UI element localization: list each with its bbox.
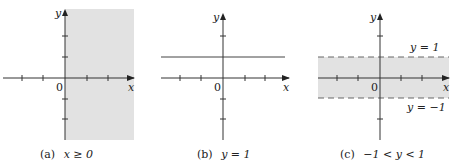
- lower-boundary-label: y = −1: [406, 101, 446, 114]
- caption-prefix: (c): [340, 148, 355, 161]
- x-axis-label: x: [128, 81, 135, 94]
- caption-math: −1 < y < 1: [363, 148, 425, 161]
- x-axis-label: x: [443, 81, 450, 94]
- panel-b-y-equals-1: y x 0 (b) y = 1: [161, 11, 290, 161]
- y-axis-arrowhead-icon: [220, 13, 226, 20]
- caption-math: y = 1: [220, 148, 250, 161]
- panel-c-band: y x 0 y = 1 y = −1 (c) −1 < y < 1: [318, 11, 450, 161]
- caption-math: x ≥ 0: [64, 148, 93, 161]
- y-axis-label: y: [369, 11, 377, 24]
- origin-label: 0: [371, 81, 378, 94]
- origin-label: 0: [56, 81, 63, 94]
- y-axis-arrowhead-icon: [377, 13, 383, 20]
- x-axis-label: x: [283, 81, 290, 94]
- y-axis-label: y: [54, 7, 62, 20]
- caption-prefix: (a): [40, 148, 55, 161]
- caption-a: (a) x ≥ 0: [40, 148, 93, 161]
- caption-prefix: (b): [197, 148, 213, 161]
- upper-boundary-label: y = 1: [409, 41, 439, 54]
- shaded-region-x-ge-0: [65, 9, 134, 140]
- figure-canvas: y x 0 (a) x ≥ 0 y x 0 (b) y = 1 y x 0 y …: [0, 0, 451, 168]
- y-axis-label: y: [212, 11, 220, 24]
- origin-label: 0: [214, 81, 221, 94]
- panel-a-x-nonnegative: y x 0 (a) x ≥ 0: [3, 7, 135, 161]
- caption-c: (c) −1 < y < 1: [340, 148, 425, 161]
- caption-b: (b) y = 1: [197, 148, 251, 161]
